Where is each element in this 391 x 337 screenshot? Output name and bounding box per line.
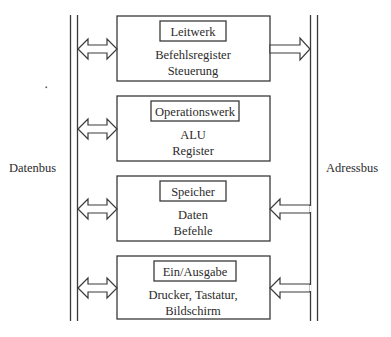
double-arrow-icon [78, 39, 117, 59]
unit-operationswerk: Operationswerk ALU Register [117, 96, 270, 161]
unit-line: Register [172, 144, 214, 158]
stray-dot [46, 87, 48, 89]
unit-line: Drucker, Tastatur, [148, 288, 237, 302]
data-bus [71, 15, 78, 321]
unit-line: Bildschirm [165, 304, 221, 318]
arrow-left-icon [270, 199, 310, 219]
unit-title: Operationswerk [155, 105, 236, 119]
address-bus-label: Adressbus [326, 161, 378, 175]
von-neumann-architecture-diagram: Datenbus Adressbus Leitwerk Befehlsregis… [0, 0, 391, 337]
arrow-left-icon [270, 278, 310, 298]
unit-line: Befehle [174, 224, 213, 238]
unit-line: ALU [180, 128, 206, 142]
double-arrow-icon [78, 199, 117, 219]
unit-ein-ausgabe: Ein/Ausgabe Drucker, Tastatur, Bildschir… [117, 256, 270, 319]
unit-line: Steuerung [168, 64, 219, 78]
unit-speicher: Speicher Daten Befehle [117, 176, 270, 241]
unit-title: Ein/Ausgabe [163, 265, 228, 279]
double-arrow-icon [78, 119, 117, 139]
data-bus-label: Datenbus [9, 161, 56, 175]
arrow-right-icon [270, 38, 310, 60]
unit-line: Daten [178, 208, 209, 222]
unit-line: Befehlsregister [155, 48, 232, 62]
double-arrow-icon [78, 278, 117, 298]
unit-title: Leitwerk [170, 25, 216, 39]
unit-title: Speicher [171, 185, 216, 199]
address-bus [311, 15, 318, 321]
unit-leitwerk: Leitwerk Befehlsregister Steuerung [117, 16, 270, 81]
